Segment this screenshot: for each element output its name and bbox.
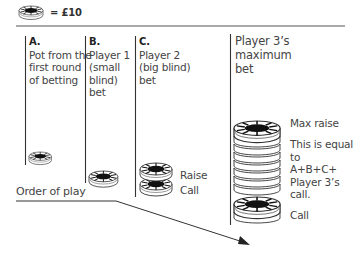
column-a-letter: A. <box>29 36 91 49</box>
column-a-line-3: of betting <box>29 74 91 87</box>
max-raise-label: Max raise <box>290 117 339 130</box>
column-b: B. Player 1 (small blind) bet <box>89 36 130 99</box>
column-p3-line-2: maximum <box>235 48 292 62</box>
order-of-play-arrow-icon <box>16 201 250 245</box>
p3-call-label: Call <box>290 209 309 222</box>
column-a-line-1: Pot from the <box>29 49 91 62</box>
column-c-letter: C. <box>139 36 190 49</box>
column-c: C. Player 2 (big blind) bet <box>139 36 190 86</box>
column-a: A. Pot from the first round of betting <box>29 36 91 86</box>
column-a-line-2: first round <box>29 61 91 74</box>
equal-note-line-2: to <box>290 151 353 164</box>
order-of-play-label: Order of play <box>16 186 86 199</box>
column-c-line-3: bet <box>139 74 190 87</box>
equal-note-line-3: A+B+C+ <box>290 163 353 176</box>
column-p3-line-1: Player 3’s <box>235 34 292 48</box>
legend-label: = £10 <box>50 7 82 20</box>
pot-chip-icon <box>29 152 51 165</box>
column-b-line-3: blind) <box>89 74 130 87</box>
c-call-label: Call <box>180 184 199 197</box>
raise-chip-icon <box>140 163 172 181</box>
c-raise-label: Raise <box>180 169 207 182</box>
p3-call-chip-icon <box>234 197 280 223</box>
equal-note-line-4: Player 3’s <box>290 176 353 189</box>
column-p3-line-3: bet <box>235 62 292 76</box>
column-b-line-1: Player 1 <box>89 49 130 62</box>
column-b-line-4: bet <box>89 86 130 99</box>
legend-chip-icon <box>19 6 43 20</box>
column-c-line-1: Player 2 <box>139 49 190 62</box>
column-b-line-2: (small <box>89 61 130 74</box>
column-c-line-2: (big blind) <box>139 61 190 74</box>
column-b-letter: B. <box>89 36 130 49</box>
equal-note-line-5: call. <box>290 188 353 201</box>
column-p3: Player 3’s maximum bet <box>235 34 292 76</box>
small-blind-chip-icon <box>89 171 118 187</box>
equal-note: This is equal to A+B+C+ Player 3’s call. <box>290 138 353 201</box>
max-raise-stack-icon <box>234 121 280 195</box>
equal-note-line-1: This is equal <box>290 138 353 151</box>
